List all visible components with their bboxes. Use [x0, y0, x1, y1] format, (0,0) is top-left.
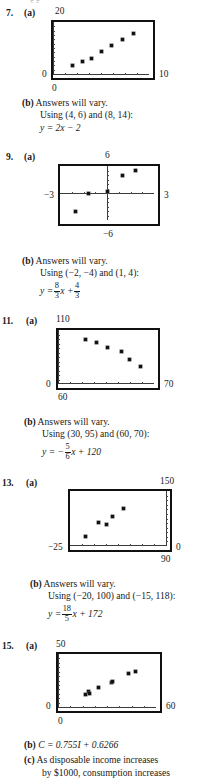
y-axis-tick	[58, 339, 60, 340]
answer-13b-line: (b) Answers will vary.	[30, 578, 116, 589]
x-axis-tick	[142, 382, 143, 384]
clipped-top-text: 5 5	[30, 0, 150, 3]
problem-number-9: 9.	[6, 152, 13, 162]
x-axis-tick	[144, 706, 145, 708]
data-point	[110, 44, 113, 47]
equation-13-mid: x + 172	[73, 608, 103, 619]
problem-number-15: 15.	[2, 641, 14, 651]
y-axis-tick	[107, 175, 109, 176]
answer-7b-using: Using (4, 6) and (8, 14):	[40, 109, 133, 120]
answer-15c-continued: by $1000, consumption increases	[42, 767, 170, 778]
y-axis-tick	[166, 505, 168, 506]
x-axis-tick	[82, 382, 83, 384]
data-point	[134, 670, 137, 673]
data-point	[84, 535, 87, 538]
y-axis-tick	[58, 698, 60, 699]
data-point	[100, 50, 103, 53]
equation-13-lhs: y =	[48, 608, 61, 619]
equation-9-num-2: 4	[74, 282, 80, 291]
answer-15b-text: C = 0.755I + 0.6266	[38, 739, 118, 750]
x-axis-tick	[70, 382, 71, 384]
equation-11-den-1: 6	[65, 452, 71, 462]
y-axis-tick	[166, 509, 168, 510]
x-axis-tick	[94, 544, 95, 546]
x-axis-tick	[130, 382, 131, 384]
part-label-7a: (a)	[24, 8, 35, 18]
data-point	[139, 365, 142, 368]
y-axis-tick	[58, 689, 60, 690]
y-axis-tick	[107, 202, 109, 203]
graph-15-left-label: 0	[46, 701, 51, 711]
y-axis-tick	[166, 541, 168, 542]
equation-9-mid: x +	[60, 285, 73, 296]
y-axis-tick	[166, 519, 168, 520]
answer-15b-line: (b) C = 0.755I + 0.6266	[24, 739, 118, 750]
graph-9-top-label: 6	[105, 150, 110, 160]
equation-9-den-1: 3	[54, 291, 60, 301]
part-label-9a: (a)	[24, 152, 35, 162]
equation-13-fraction-1: 185	[62, 605, 72, 623]
y-axis-tick	[107, 180, 109, 181]
y-axis-tick	[58, 667, 60, 668]
equation-11-num-1: 5	[65, 443, 71, 452]
data-point	[127, 672, 130, 675]
y-axis-tick	[53, 31, 55, 32]
graph-11-calculator-window	[56, 328, 160, 390]
equation-9-lhs: y =	[40, 285, 53, 296]
y-axis-tick	[58, 672, 60, 673]
equation-11: y = −56x + 120	[42, 443, 101, 461]
y-axis-tick	[58, 344, 60, 345]
data-point	[122, 507, 125, 510]
data-point	[90, 57, 93, 60]
y-axis-tick	[166, 523, 168, 524]
problem-number-13: 13.	[2, 478, 14, 488]
x-axis-tick	[83, 706, 84, 708]
x-axis-tick	[72, 192, 73, 194]
x-axis-tick	[142, 544, 143, 546]
data-point	[87, 192, 90, 195]
problem-number-11: 11.	[2, 316, 13, 326]
part-label-15b: (b)	[24, 739, 36, 750]
data-point	[121, 38, 124, 41]
graph-9-left-label: −3	[44, 190, 54, 200]
equation-9: y =83x +43	[40, 282, 81, 300]
y-axis-tick	[53, 26, 55, 27]
y-axis-tick	[58, 335, 60, 336]
x-axis-tick	[106, 382, 107, 384]
data-point	[105, 523, 108, 526]
graph-7-top-label: 20	[55, 6, 64, 16]
graph-13-left-label: −25	[48, 542, 63, 552]
data-point	[111, 680, 114, 683]
part-label-15a: (a)	[26, 641, 37, 651]
y-axis-tick	[58, 362, 60, 363]
y-axis-tick	[58, 681, 60, 682]
x-axis-tick	[89, 73, 90, 75]
y-axis-tick	[58, 658, 60, 659]
graph-11-left-label: 0	[46, 379, 51, 389]
equation-9-fraction-1: 83	[54, 282, 60, 300]
graph-15-calculator-window	[56, 652, 162, 713]
y-axis-tick	[166, 532, 168, 533]
y-axis-tick	[58, 371, 60, 372]
data-point	[74, 210, 77, 213]
y-axis-tick	[53, 44, 55, 45]
y-axis-tick	[107, 193, 109, 194]
x-axis-tick	[70, 706, 71, 708]
part-label-13a: (a)	[26, 478, 37, 488]
y-axis-tick	[166, 514, 168, 515]
x-axis-tick	[106, 544, 107, 546]
graph-9-calculator-window	[58, 164, 160, 226]
graph-13-top-label: 150	[160, 476, 174, 486]
y-axis-tick	[58, 353, 60, 354]
part-label-9b: (b)	[22, 255, 34, 266]
y-axis-tick	[107, 216, 109, 217]
equation-11-mid: x + 120	[71, 446, 101, 457]
y-axis-tick	[107, 198, 109, 199]
x-axis-tick	[118, 382, 119, 384]
equation-7: y = 2x − 2	[40, 122, 81, 133]
answer-9b-line: (b) Answers will vary.	[22, 255, 108, 266]
answer-11b-text: Answers will vary.	[38, 416, 110, 427]
data-point	[128, 358, 131, 361]
x-axis-tick	[119, 706, 120, 708]
x-axis-tick	[118, 544, 119, 546]
